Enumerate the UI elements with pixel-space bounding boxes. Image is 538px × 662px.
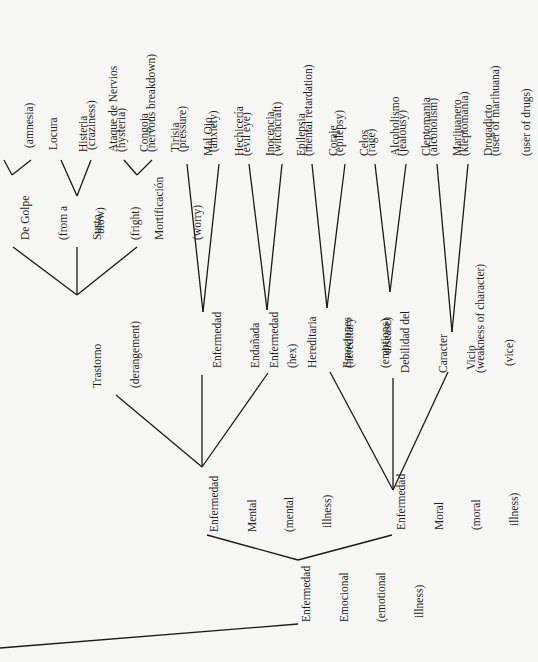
node-mortificacion: Mortificación (worry) [128, 177, 216, 240]
node-emocional-es2: Emocional [338, 566, 351, 622]
edge-mental-hereditaria [202, 373, 268, 467]
node-endanada-es1: Enfermedad [211, 312, 224, 368]
edge-mortificacion-tirisia [137, 160, 152, 175]
edge-moral-emociones [330, 372, 393, 490]
node-trastorno: Trastorno (derangement) [66, 321, 154, 388]
node-mental-es1: Enfermedad [208, 476, 221, 532]
edge-hereditaria-inocencia [249, 164, 267, 310]
node-emociones-es: Emociones [341, 317, 354, 368]
node-mental: Enfermedad Mental (mental illness) [183, 476, 346, 532]
edge-trastorno-degolpe [13, 247, 77, 295]
node-vicio: Vicio (vice) [440, 339, 528, 370]
node-trastorno-en: (derangement) [129, 321, 142, 388]
edge-emociones-celos [327, 164, 345, 308]
node-moral-es2: Moral [433, 474, 446, 530]
node-mental-en1: (mental [283, 476, 296, 532]
node-drogadicto: Drogadicto (user of drugs) [457, 88, 538, 156]
edge-root-stem [0, 624, 298, 648]
node-mental-en2: illness) [321, 476, 334, 532]
edge-mortificacion-congoja [124, 160, 137, 175]
node-drogadicto-en: (user of drugs) [520, 88, 533, 156]
node-emocional-en1: (emotional [375, 566, 388, 622]
node-hereditaria-es1: Enfermedad [268, 312, 281, 368]
node-moral-es1: Enfermedad [395, 474, 408, 530]
edge-emocional-moral [298, 535, 392, 560]
node-mortificacion-en: (worry) [191, 177, 204, 240]
node-emocional-en2: illness) [413, 566, 426, 622]
node-drogadicto-es: Drogadicto [482, 88, 495, 156]
node-moral: Enfermedad Moral (moral illness) [370, 474, 533, 530]
edge-degolpe-amnesia [4, 160, 12, 175]
edge-emocional-mental [207, 535, 298, 560]
node-trastorno-es: Trastorno [91, 321, 104, 388]
node-vicio-es: Vicio [465, 339, 478, 370]
node-emocional-es1: Enfermedad [300, 566, 313, 622]
node-susto-es: Susto [91, 207, 104, 240]
edge-emociones-coraje [312, 164, 327, 308]
node-debilidad-es1: Debilidad del [399, 264, 412, 373]
edge-degolpe-locura [12, 160, 31, 175]
edge-moral-vicio [393, 372, 448, 490]
node-moral-en2: illness) [508, 474, 521, 530]
edge-susto-histeria [61, 160, 77, 196]
edge-trastorno-mortificacion [77, 247, 137, 295]
node-emocional: Enfermedad Emocional (emotional illness) [275, 566, 438, 622]
edge-susto-ataque [77, 160, 91, 196]
node-mental-es2: Mental [246, 476, 259, 532]
edge-mental-trastorno [116, 395, 202, 467]
node-mortificacion-es: Mortificación [153, 177, 166, 240]
node-moral-en1: (moral [470, 474, 483, 530]
edge-hereditaria-epilepsia [267, 164, 282, 310]
node-vicio-en: (vice) [503, 339, 516, 370]
node-degolpe-es: De Golpe [19, 196, 32, 240]
